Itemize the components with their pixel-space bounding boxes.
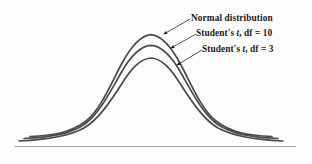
leader-line-normal-distribution bbox=[164, 19, 190, 34]
annotation-t10-prefix: Student's bbox=[196, 28, 237, 38]
annotation-label-students-t-df10: Student's t, df = 10 bbox=[196, 28, 272, 38]
annotation-label-students-t-df3: Student's t, df = 3 bbox=[202, 44, 274, 54]
leader-line-students-t-df10 bbox=[171, 34, 196, 48]
figure-root: Normal distribution Student's t, df = 10… bbox=[0, 0, 312, 164]
leader-line-students-t-df3 bbox=[177, 50, 202, 65]
curve-students-t-df10 bbox=[24, 45, 278, 138]
annotation-normal-prefix: Normal distribution bbox=[191, 13, 273, 23]
curve-students-t-df3 bbox=[19, 58, 283, 141]
annotation-t3-prefix: Student's bbox=[202, 44, 243, 54]
annotation-t3-suffix: , df = 3 bbox=[245, 44, 273, 54]
distribution-plot bbox=[0, 0, 312, 164]
annotation-t10-suffix: , df = 10 bbox=[239, 28, 272, 38]
annotation-label-normal-distribution: Normal distribution bbox=[191, 13, 273, 23]
